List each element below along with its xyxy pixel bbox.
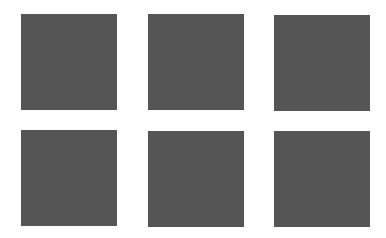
maze-1 bbox=[21, 14, 117, 110]
maze-5 bbox=[148, 131, 244, 227]
maze-3-svg bbox=[274, 15, 370, 111]
maze-6 bbox=[274, 131, 370, 227]
maze-4 bbox=[21, 130, 117, 226]
maze-6-svg bbox=[274, 131, 370, 227]
maze-1-svg bbox=[21, 14, 117, 110]
maze-5-svg bbox=[148, 131, 244, 227]
maze-2 bbox=[148, 14, 244, 110]
maze-4-svg bbox=[21, 130, 117, 226]
maze-2-svg bbox=[148, 14, 244, 110]
maze-3 bbox=[274, 15, 370, 111]
